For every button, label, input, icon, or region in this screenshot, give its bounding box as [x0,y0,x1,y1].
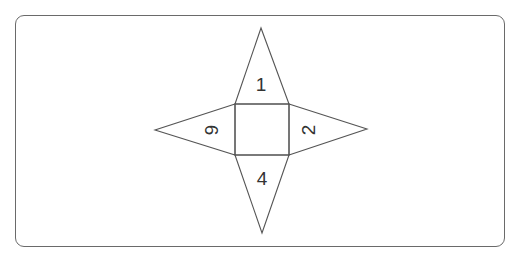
face-label-top: 1 [256,74,267,95]
face-left [155,104,235,155]
face-label-bottom: 4 [257,168,268,189]
face-label-left: 6 [201,125,222,136]
pyramid-net-diagram: 1 2 4 6 [0,0,519,258]
face-label-right: 2 [298,125,319,136]
center-square [235,104,289,155]
face-bottom [235,155,289,233]
